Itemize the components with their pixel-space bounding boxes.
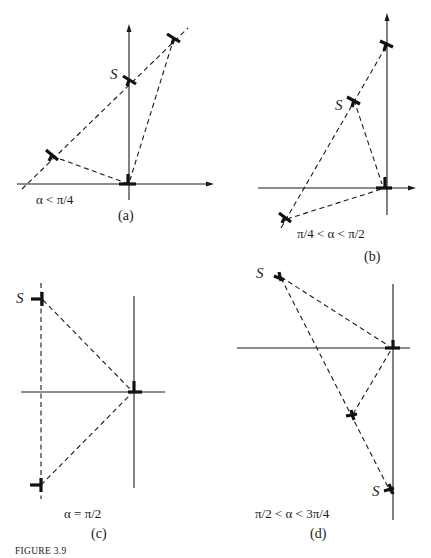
panel-a-line-through-s bbox=[22, 28, 188, 189]
figure-3-9-diagram bbox=[0, 0, 431, 558]
panel-b-line-through-s bbox=[281, 43, 388, 228]
panel-c-s-label: S bbox=[16, 290, 24, 307]
panel-a-s-label: S bbox=[110, 66, 118, 83]
panel-c-label: (c) bbox=[91, 526, 107, 542]
panel-d-line-middle-origin bbox=[353, 350, 391, 414]
panel-d-condition: π/2 < α < 3π/4 bbox=[255, 506, 329, 522]
panel-b-y-arrow-icon bbox=[385, 13, 390, 21]
panel-a-y-arrow-icon bbox=[127, 24, 132, 32]
panel-d-line-stop-origin bbox=[281, 277, 389, 346]
panel-c-bottom-mark-icon bbox=[30, 478, 41, 492]
panel-a-label: (a) bbox=[118, 208, 134, 224]
panel-b-s-label: S bbox=[335, 97, 343, 114]
panel-a bbox=[17, 24, 214, 200]
panel-c-condition: α = π/2 bbox=[64, 506, 101, 522]
panel-b-origin-mark-icon bbox=[376, 177, 392, 188]
panel-d-middle-mark-icon bbox=[346, 410, 357, 420]
panel-a-condition: α < π/4 bbox=[36, 192, 73, 208]
panel-c-line-bottom-origin bbox=[41, 394, 131, 485]
panel-d-origin-mark-icon bbox=[385, 340, 400, 348]
panel-a-origin-mark-icon bbox=[119, 174, 136, 184]
panel-b-line-lowerleft-origin bbox=[287, 189, 382, 219]
panel-c-s-mark-icon bbox=[31, 292, 42, 306]
panel-d-s-bottom-label: S bbox=[372, 483, 380, 500]
panel-a-line-lowerleft-origin bbox=[52, 156, 126, 183]
panel-b-x-arrow-icon bbox=[408, 186, 416, 191]
panel-b-line-s-origin bbox=[354, 100, 382, 184]
panel-d-s-top-label: S bbox=[256, 265, 264, 282]
panel-b bbox=[258, 13, 416, 228]
figure-caption: FIGURE 3.9 bbox=[15, 546, 67, 556]
panel-c bbox=[21, 283, 165, 499]
panel-a-lower-left-mark-icon bbox=[46, 150, 58, 161]
panel-d-s-top-mark-icon bbox=[274, 272, 284, 281]
panel-c-origin-mark-icon bbox=[128, 381, 142, 392]
panel-b-s-mark-icon bbox=[347, 97, 360, 107]
panel-b-condition: π/4 < α < π/2 bbox=[297, 226, 365, 242]
panel-a-x-arrow-icon bbox=[206, 182, 214, 187]
panel-a-upper-right-mark-icon bbox=[167, 34, 180, 44]
panel-d-label: (d) bbox=[310, 526, 326, 542]
panel-b-label: (b) bbox=[364, 249, 380, 265]
panel-d-line-stop-sbottom bbox=[281, 278, 391, 493]
panel-a-line-upperright-origin bbox=[130, 38, 174, 180]
panel-d bbox=[237, 272, 410, 520]
panel-c-line-s-origin bbox=[43, 300, 131, 390]
